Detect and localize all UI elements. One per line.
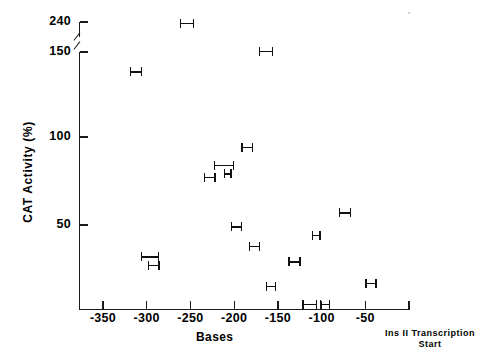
data-point [320,300,330,309]
data-point [266,282,276,291]
data-point [312,231,321,240]
x-tick--50 [365,301,366,309]
data-point [241,143,253,152]
x-tick--250 [190,301,191,309]
y-tick-label-50: 50 [31,217,71,231]
data-point [130,67,142,76]
error-bar-cap-right [141,67,142,76]
data-point [259,47,274,56]
error-bar-cap-right [252,143,253,152]
x-tick-origin [408,301,409,309]
error-bar-cap-right [230,169,231,178]
error-bar-cap-right [233,161,234,170]
data-point [204,173,216,182]
y-tick-label-240: 240 [31,14,71,28]
error-bar-cap-right [158,261,159,270]
error-bar-cap-right [259,242,260,251]
error-bar-cap-right [299,257,300,266]
x-tick-label--350: -350 [78,311,128,325]
error-bar-cap-right [275,282,276,291]
error-bar-line [214,165,234,166]
data-point [148,261,160,270]
y-tick-150 [80,51,88,52]
x-tick-label--50: -50 [340,311,390,325]
error-bar-cap-right [241,222,242,231]
error-bar-cap-right [329,300,330,309]
x-tick--300 [146,301,147,309]
error-bar-cap-right [375,279,376,288]
data-point [141,252,159,261]
y-axis-lower-segment [79,52,80,310]
y-axis-label: CAT Activity (%) [21,82,35,262]
origin-annotation: Ins II Transcription Start [371,328,488,350]
origin-annotation-line2: Start [371,339,488,350]
y-tick-100 [80,136,88,137]
origin-annotation-line1: Ins II Transcription [385,328,475,338]
x-tick-label--100: -100 [297,311,347,325]
x-axis-label: Bases [196,330,233,344]
x-tick--350 [102,301,103,309]
data-point [224,169,232,178]
y-tick-label-100: 100 [31,129,71,143]
data-point [214,161,234,170]
scan-speck [408,12,410,14]
error-bar-cap-right [272,47,273,56]
data-point [180,19,194,28]
y-tick-240 [80,21,88,22]
data-point [249,242,260,251]
error-bar-line [141,256,159,257]
y-tick-label-150: 150 [31,44,71,58]
x-tick-label--250: -250 [165,311,215,325]
data-point [302,300,317,309]
x-tick-label--300: -300 [122,311,172,325]
error-bar-cap-right [158,252,159,261]
error-bar-cap-right [319,231,320,240]
data-point [365,279,376,288]
error-bar-cap-right [193,19,194,28]
axis-break-mark-lower [73,41,80,50]
error-bar-cap-right [214,173,215,182]
data-point [288,257,300,266]
error-bar-cap-right [316,300,317,309]
data-point [231,222,242,231]
x-tick--150 [277,301,278,309]
x-tick--200 [234,301,235,309]
x-tick-label--150: -150 [253,311,303,325]
x-tick-label--200: -200 [209,311,259,325]
data-point [339,208,351,217]
error-bar-cap-right [350,208,351,217]
y-tick-50 [80,224,88,225]
chart-figure: CAT Activity (%) Bases Ins II Transcript… [0,0,488,359]
